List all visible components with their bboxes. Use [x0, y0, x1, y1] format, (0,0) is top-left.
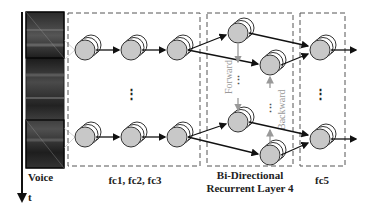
fc5-node-top — [310, 35, 336, 60]
voice-spectrogram — [26, 12, 64, 168]
fc1-node-top — [75, 35, 101, 60]
fc1-node-bottom — [75, 122, 101, 147]
fc5-node-bottom — [310, 124, 336, 149]
fc3-node-bottom — [167, 122, 193, 147]
fc2-node-bottom — [121, 122, 147, 147]
output-arrows — [331, 50, 356, 139]
fc-ellipsis: ⋮ — [125, 86, 138, 101]
backward-ellipsis: ⋮ — [265, 102, 276, 114]
birnn-backward-node-bottom — [260, 140, 286, 165]
fc5-ellipsis: ⋮ — [314, 86, 327, 101]
birnn-forward-node-bottom — [228, 107, 254, 132]
time-axis-label: t — [28, 191, 32, 204]
forward-label: Forward — [223, 60, 234, 94]
fc-group-label: fc1, fc2, fc3 — [100, 174, 170, 187]
birnn-backward-node-top — [260, 50, 286, 75]
voice-label: Voice — [28, 171, 53, 184]
fc2-node-top — [121, 35, 147, 60]
backward-label: Backward — [276, 89, 287, 130]
birnn-label-line2: Recurrent Layer 4 — [200, 182, 300, 195]
fc3-node-top — [167, 35, 193, 60]
birnn-label-line1: Bi-Directional — [200, 169, 300, 182]
birnn-forward-node-top — [228, 18, 254, 43]
forward-ellipsis: ⋮ — [233, 74, 244, 86]
fc5-label: fc5 — [305, 174, 339, 187]
